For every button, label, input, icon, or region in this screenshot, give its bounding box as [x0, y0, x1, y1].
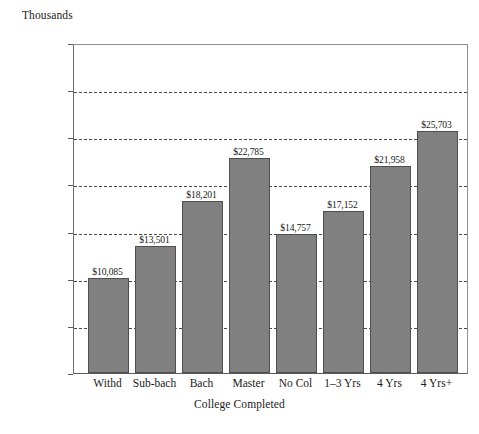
gridline	[74, 92, 467, 93]
y-tick-mark	[68, 44, 73, 45]
y-tick-mark	[68, 185, 73, 186]
y-tick-mark	[68, 374, 73, 375]
bar-value-label: $13,501	[125, 234, 184, 245]
y-tick-mark	[68, 233, 73, 234]
y-tick-mark	[68, 138, 73, 139]
x-category-label: 4 Yrs+	[405, 377, 468, 389]
bar-value-label: $22,785	[219, 146, 278, 157]
bar	[88, 278, 129, 373]
bar	[276, 234, 317, 373]
bar	[229, 158, 270, 373]
bar	[370, 166, 411, 373]
gridline	[74, 139, 467, 140]
bar-value-label: $25,703	[407, 119, 466, 130]
bar-value-label: $17,152	[313, 199, 372, 210]
bar-chart: Thousands $ 0$ 5$10$15$20$25$30$35 $10,0…	[0, 0, 479, 434]
bar	[323, 211, 364, 373]
bar-value-label: $21,958	[360, 154, 419, 165]
y-tick-mark	[68, 91, 73, 92]
y-tick-mark	[68, 280, 73, 281]
bar-value-label: $14,757	[266, 222, 325, 233]
x-axis-title: College Completed	[0, 398, 479, 410]
bar-value-label: $18,201	[172, 189, 231, 200]
bar	[182, 201, 223, 373]
y-tick-mark	[68, 327, 73, 328]
y-axis-unit-caption: Thousands	[22, 9, 73, 21]
bar	[135, 246, 176, 373]
bar	[417, 131, 458, 373]
bar-value-label: $10,085	[78, 266, 137, 277]
plot-area	[73, 44, 468, 374]
